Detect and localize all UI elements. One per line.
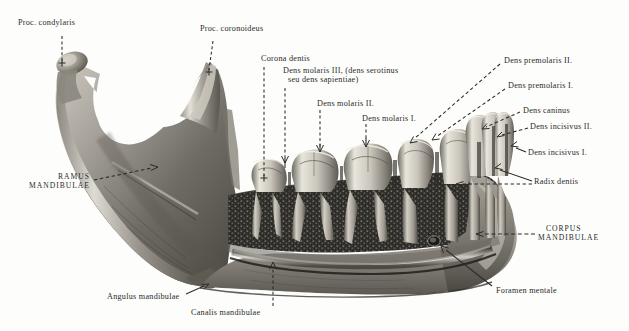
label-dens-caninus: Dens caninus (523, 106, 570, 115)
label-proc-condylaris: Proc. condylaris (18, 18, 75, 27)
label-ramus-mandibulae-line1: RAMUS (0, 172, 90, 181)
label-dens-incisivus-1: Dens incisivus I. (528, 148, 587, 157)
label-corona-dentis: Corona dentis (261, 54, 310, 63)
label-dens-premolaris-1: Dens premolaris I. (508, 81, 573, 90)
ramus-mandibulae-shape (54, 48, 240, 288)
label-corpus-mandibulae-line2: MANDIBULAE (538, 233, 599, 242)
anatomical-plate: Proc. condylaris Proc. coronoideus Coron… (0, 0, 629, 331)
label-dens-incisivus-2: Dens incisivus II. (530, 122, 592, 131)
label-dens-molaris-1: Dens molaris I. (362, 114, 416, 123)
label-corpus-mandibulae-line1: CORPUS (546, 224, 582, 233)
label-proc-coronoideus: Proc. coronoideus (200, 24, 263, 33)
label-ramus-mandibulae-line2: MANDIBULAE (0, 181, 90, 190)
mandible-illustration (0, 0, 629, 331)
label-dens-molaris-2: Dens molaris II. (317, 99, 374, 108)
label-canalis-mandibulae: Canalis mandibulae (191, 308, 260, 317)
label-radix-dentis: Radix dentis (534, 177, 578, 186)
label-dens-premolaris-2: Dens premolaris II. (504, 56, 572, 65)
label-foramen-mentale: Foramen mentale (496, 286, 557, 295)
label-dens-molaris-3-line1: Dens molaris III, (dens serotinus (283, 66, 398, 75)
foramen-mentale-shape (428, 236, 441, 246)
label-dens-molaris-3-line2: seu dens sapientiae) (288, 75, 358, 84)
label-angulus-mandibulae: Angulus mandibulae (107, 292, 180, 301)
